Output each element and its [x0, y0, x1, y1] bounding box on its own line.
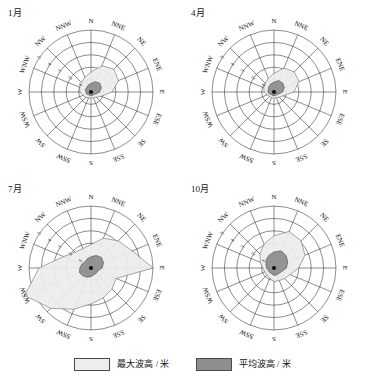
- legend-item-mean: 平均波高 / 米: [196, 358, 291, 371]
- wave-rose-figure: 1月 12345NNNENEENEEESESESSESSSWSWWSWWWNWN…: [0, 0, 365, 383]
- direction-label-w: W: [16, 88, 24, 95]
- direction-label-nne: NNE: [110, 196, 126, 209]
- direction-label-sse: SSE: [111, 152, 125, 164]
- direction-label-nw: NW: [217, 210, 231, 224]
- direction-label-sw: SW: [34, 136, 47, 149]
- rose-chart: 12345NNNENEENEEESESESSESSSWSWWSWWWNWNWNN…: [183, 12, 365, 178]
- direction-label-ese: ESE: [334, 288, 346, 303]
- direction-label-ene: ENE: [151, 233, 164, 249]
- direction-label-wnw: WNW: [201, 230, 216, 250]
- direction-label-s: S: [272, 159, 276, 167]
- direction-label-n: N: [271, 193, 276, 201]
- direction-label-wsw: WSW: [201, 110, 215, 129]
- direction-label-e: E: [158, 266, 166, 270]
- legend-item-max: 最大波高 / 米: [74, 358, 169, 371]
- direction-label-ne: NE: [135, 211, 147, 223]
- legend-label-max: 最大波高 / 米: [117, 359, 169, 370]
- rose-panel: 1月 12345NNNENEENEEESESESSESSSWSWWSWWWNWN…: [0, 4, 182, 179]
- rose-chart: 12345NNNENEENEEESESESSESSSWSWWSWWWNWNWNN…: [0, 12, 182, 178]
- direction-label-ene: ENE: [334, 57, 347, 73]
- direction-label-w: W: [199, 264, 207, 271]
- direction-label-e: E: [158, 90, 166, 94]
- direction-label-nnw: NNW: [237, 19, 256, 33]
- direction-label-sse: SSE: [294, 152, 308, 164]
- direction-label-sw: SW: [217, 312, 230, 325]
- direction-label-sw: SW: [34, 312, 47, 325]
- rose-panel: 7月 12345NNNENEENEEESESESSESSSWSWWSWWWNWN…: [0, 180, 182, 355]
- direction-label-s: S: [89, 159, 93, 167]
- direction-label-ssw: SSW: [55, 151, 72, 164]
- direction-label-ssw: SSW: [238, 327, 255, 340]
- direction-label-n: N: [88, 193, 93, 201]
- direction-label-nw: NW: [34, 210, 48, 224]
- direction-label-wnw: WNW: [201, 54, 216, 74]
- legend-swatch-mean: [196, 358, 232, 371]
- direction-label-w: W: [199, 88, 207, 95]
- direction-label-se: SE: [136, 137, 147, 148]
- direction-label-ese: ESE: [151, 288, 163, 303]
- direction-label-wnw: WNW: [18, 54, 33, 74]
- direction-label-nw: NW: [34, 34, 48, 48]
- direction-label-n: N: [271, 17, 276, 25]
- direction-label-s: S: [272, 335, 276, 343]
- legend-swatch-max: [74, 358, 110, 371]
- direction-label-w: W: [16, 264, 24, 271]
- direction-label-se: SE: [319, 313, 330, 324]
- direction-label-nw: NW: [217, 34, 231, 48]
- direction-label-se: SE: [319, 137, 330, 148]
- direction-label-sse: SSE: [294, 328, 308, 340]
- rose-panel: 10月 12345NNNENEENEEESESESSESSSWSWWSWWWNW…: [183, 180, 365, 355]
- direction-label-ne: NE: [135, 35, 147, 47]
- direction-label-ese: ESE: [334, 112, 346, 127]
- direction-label-se: SE: [136, 313, 147, 324]
- figure-legend: 最大波高 / 米 平均波高 / 米: [0, 350, 365, 378]
- direction-label-nnw: NNW: [54, 19, 73, 33]
- direction-label-s: S: [89, 335, 93, 343]
- direction-label-sse: SSE: [111, 328, 125, 340]
- direction-label-wsw: WSW: [201, 286, 215, 305]
- direction-label-ene: ENE: [151, 57, 164, 73]
- legend-label-mean: 平均波高 / 米: [239, 359, 291, 370]
- direction-label-e: E: [341, 266, 349, 270]
- rose-panel: 4月 12345NNNENEENEEESESESSESSSWSWWSWWWNWN…: [183, 4, 365, 179]
- direction-label-nnw: NNW: [237, 195, 256, 209]
- direction-label-nne: NNE: [293, 20, 309, 33]
- direction-label-n: N: [88, 17, 93, 25]
- direction-label-ssw: SSW: [238, 151, 255, 164]
- direction-label-ene: ENE: [334, 233, 347, 249]
- rose-chart: 12345NNNENEENEEESESESSESSSWSWWSWWWNWNWNN…: [0, 188, 182, 354]
- direction-label-ssw: SSW: [55, 327, 72, 340]
- direction-label-nne: NNE: [110, 20, 126, 33]
- rose-chart: 12345NNNENEENEEESESESSESSSWSWWSWWWNWNWNN…: [183, 188, 365, 354]
- direction-label-ese: ESE: [151, 112, 163, 127]
- direction-label-ne: NE: [318, 35, 330, 47]
- direction-label-e: E: [341, 90, 349, 94]
- direction-label-nnw: NNW: [54, 195, 73, 209]
- direction-label-wnw: WNW: [18, 230, 33, 250]
- direction-label-sw: SW: [217, 136, 230, 149]
- direction-label-ne: NE: [318, 211, 330, 223]
- direction-label-nne: NNE: [293, 196, 309, 209]
- direction-label-wsw: WSW: [18, 110, 32, 129]
